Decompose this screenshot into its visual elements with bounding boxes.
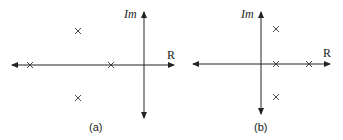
real-axis-label-a: R (167, 48, 175, 62)
real-axis-label-b: R (323, 46, 331, 60)
pole-cross-icon (273, 94, 279, 100)
diagram-b: Im R (b) (193, 7, 331, 133)
pole-cross-icon (75, 95, 81, 101)
caption-b: (b) (254, 121, 267, 133)
caption-a: (a) (89, 121, 102, 133)
imag-axis-label-a: Im (123, 7, 137, 21)
pole-diagrams: Im R (a) Im R (b) (0, 0, 343, 140)
imag-axis-label-b: Im (240, 7, 254, 21)
pole-cross-icon (75, 28, 81, 34)
diagram-a: Im R (a) (12, 7, 175, 133)
pole-cross-icon (273, 26, 279, 32)
